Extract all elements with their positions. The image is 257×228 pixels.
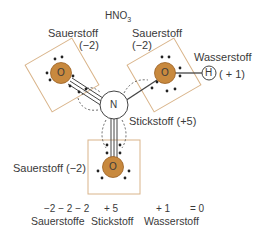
summary-value-hydrogen: + 1 [156,203,170,215]
summary-name-nitrogen: Stickstoff [91,215,133,227]
summary-value-total: = 0 [190,203,204,215]
oxygen-symbol-bottom: O [109,161,117,173]
label-oxygen-top-left-charge: (−2) [79,39,99,51]
label-nitrogen: Stickstoff (+5) [129,115,196,127]
nitrogen-symbol: N [110,99,117,111]
summary-value-nitrogen: + 5 [104,203,118,215]
hno3-structure-diagram [0,0,257,228]
label-oxygen-top-left-name: Sauerstoff [48,27,98,39]
label-hydrogen-charge: ( + 1) [219,68,245,80]
formula-title: HNO3 [105,10,131,26]
summary-name-oxygen: Sauerstoffe [31,215,85,227]
formula-main: HNO [105,10,127,21]
label-hydrogen-name: Wasserstoff [194,51,251,63]
hydrogen-symbol: H [205,67,212,79]
label-oxygen-top-right-name: Sauerstoff [132,27,182,39]
summary-name-hydrogen: Wasserstoff [144,215,199,227]
label-oxygen-bottom: Sauerstoff (−2) [13,162,86,174]
label-oxygen-top-right-charge: (−2) [132,39,152,51]
summary-value-oxygen: −2 − 2 − 2 [44,203,89,215]
oxygen-symbol-top-left: O [57,67,65,79]
formula-subscript: 3 [127,16,131,23]
oxygen-symbol-top-right: O [161,67,169,79]
